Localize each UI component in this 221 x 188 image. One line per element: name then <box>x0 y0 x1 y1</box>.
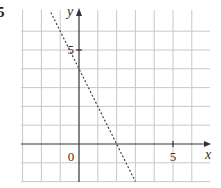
x-tick-label: 5 <box>170 149 177 164</box>
x-tick-label: 0 <box>68 149 75 164</box>
grid <box>21 10 210 182</box>
dashed-line-series <box>51 12 136 181</box>
y-axis-arrow-icon <box>76 8 82 16</box>
axes <box>21 8 211 182</box>
y-tick-label: 5 <box>68 42 75 57</box>
y-axis-label: y <box>65 4 74 19</box>
marks <box>51 12 136 181</box>
x-axis-label: x <box>204 147 212 162</box>
graph: 055xy <box>0 0 221 188</box>
